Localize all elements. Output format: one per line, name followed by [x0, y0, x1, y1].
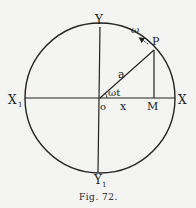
- label-origin: o: [100, 101, 106, 112]
- label-y-bottom-sub: 1: [102, 181, 106, 189]
- label-radius-a: a: [118, 68, 125, 81]
- label-x-var: x: [120, 100, 127, 113]
- angle-arc: [105, 93, 107, 98]
- label-y-top: Y: [94, 13, 104, 27]
- label-angle: ωt: [108, 87, 120, 98]
- label-foot-m: M: [147, 100, 158, 113]
- label-x-left-sub: 1: [18, 101, 22, 109]
- label-x-right: X: [178, 93, 187, 107]
- figure-caption: Fig. 72.: [79, 192, 118, 202]
- reference-circle-diagram: Y X 1 X Y 1 o x M P a ωt ω Fig. 72.: [0, 0, 196, 208]
- label-point-p: P: [152, 35, 160, 48]
- label-omega: ω: [131, 24, 139, 35]
- label-x-left: X: [8, 93, 17, 107]
- y-axis-line: [98, 27, 100, 172]
